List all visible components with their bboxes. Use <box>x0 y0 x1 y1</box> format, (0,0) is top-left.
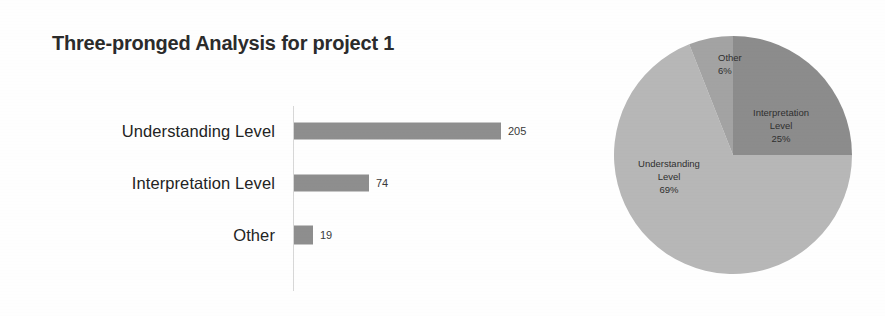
bar-value-label: 19 <box>320 229 332 241</box>
bar-other[interactable] <box>294 226 313 245</box>
pie-chart-svg <box>613 35 853 275</box>
bar-chart: Understanding Level 205 Interpretation L… <box>0 100 560 300</box>
bar-row-interpretation-level: Interpretation Level 74 <box>0 166 560 200</box>
bar-interpretation-level[interactable] <box>294 175 369 192</box>
bar-category-label: Interpretation Level <box>132 174 275 193</box>
page-title: Three-pronged Analysis for project 1 <box>52 32 394 55</box>
bar-understanding-level[interactable] <box>294 123 501 140</box>
figure-canvas: Three-pronged Analysis for project 1 Und… <box>0 0 885 316</box>
bar-row-understanding-level: Understanding Level 205 <box>0 114 560 148</box>
bar-category-label: Understanding Level <box>122 122 275 141</box>
bar-value-label: 74 <box>376 177 388 189</box>
bar-row-other: Other 19 <box>0 218 560 252</box>
pie-slice-interpretation-level[interactable] <box>733 36 852 155</box>
pie-chart: Other 6% Interpretation Level 25% Unders… <box>613 35 853 275</box>
bar-value-label: 205 <box>508 125 526 137</box>
bar-category-label: Other <box>233 226 275 245</box>
